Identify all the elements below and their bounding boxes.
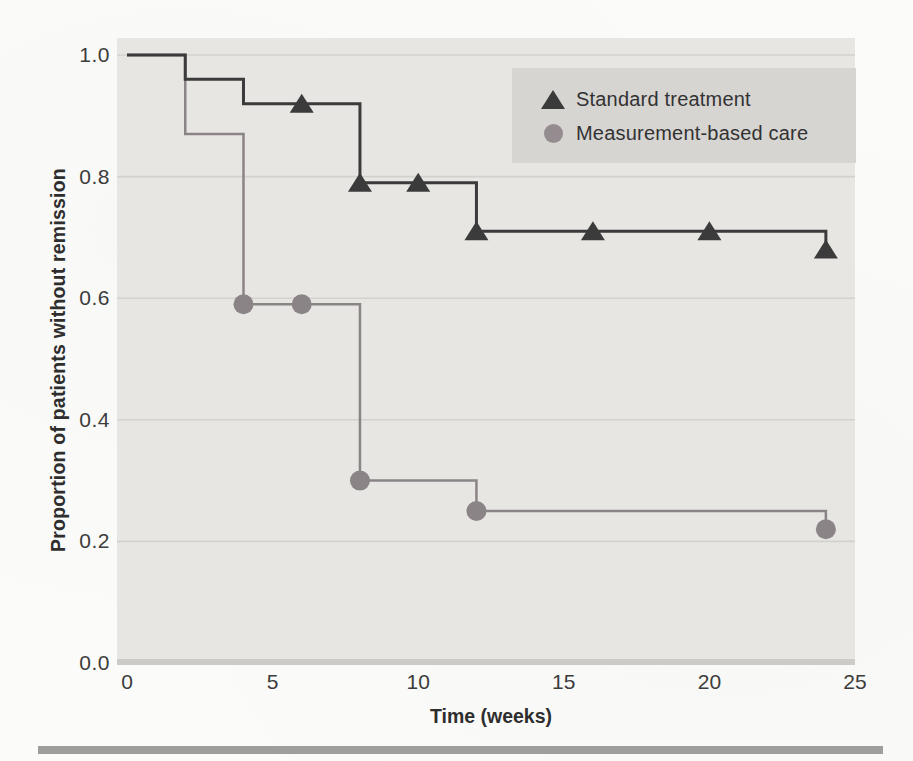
chart-legend: Standard treatment Measurement-based car…	[512, 68, 856, 163]
x-tick-label: 5	[243, 669, 303, 695]
legend-marker-cell	[530, 90, 576, 109]
x-tick-label: 10	[388, 669, 448, 695]
circle-marker-icon	[544, 124, 563, 143]
x-tick-label: 15	[534, 669, 594, 695]
legend-label: Measurement-based care	[576, 122, 808, 145]
legend-marker-cell	[530, 124, 576, 143]
legend-item-measurement-based-care: Measurement-based care	[530, 116, 856, 150]
y-axis-title: Proportion of patients without remission	[47, 168, 70, 552]
triangle-marker-icon	[541, 90, 565, 109]
x-axis-title: Time (weeks)	[430, 705, 552, 728]
x-tick-label: 25	[825, 669, 885, 695]
bottom-divider-rule	[38, 746, 883, 754]
legend-item-standard-treatment: Standard treatment	[530, 82, 856, 116]
y-tick-label: 1.0	[38, 42, 110, 68]
x-tick-label: 20	[679, 669, 739, 695]
legend-label: Standard treatment	[576, 88, 751, 111]
x-tick-label: 0	[97, 669, 157, 695]
km-survival-figure: 0.0 0.2 0.4 0.6 0.8 1.0 0 5 10 15 20 25 …	[0, 0, 913, 761]
